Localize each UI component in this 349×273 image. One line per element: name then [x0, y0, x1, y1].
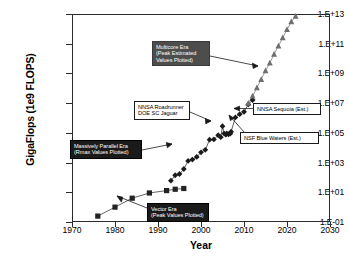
arrowhead-sequoia: [234, 106, 240, 111]
data-point: [293, 13, 299, 19]
data-point: [130, 196, 135, 201]
data-point: [263, 68, 269, 74]
data-point: [164, 188, 169, 193]
data-point: [173, 187, 178, 192]
arrowhead-multicore: [253, 63, 259, 68]
arrowhead-vector: [117, 196, 123, 202]
data-point: [284, 26, 290, 32]
data-point: [95, 213, 100, 218]
arrowhead-massively: [166, 143, 172, 148]
data-point: [185, 158, 191, 164]
annotation-massively-parallel: Massively Parallel Era (Rmax Values Plot…: [70, 140, 142, 159]
leader-line-multicore: [210, 56, 258, 66]
data-point: [254, 84, 260, 90]
arrowhead-roadrunner: [205, 119, 211, 124]
leader-lines: [117, 56, 258, 208]
data-point: [112, 205, 117, 210]
data-point: [258, 76, 264, 82]
data-point: [220, 123, 226, 129]
data-point: [267, 60, 273, 66]
data-point: [280, 35, 286, 41]
data-point: [147, 190, 152, 195]
annotation-nnsa-sequoia: NNSA Sequoia (Est.): [253, 103, 321, 115]
data-point: [250, 93, 256, 99]
annotation-multicore-era: Multicore Era (Peak Estimated Values Plo…: [152, 41, 210, 66]
data-point: [271, 51, 277, 57]
data-point: [181, 186, 186, 191]
annotation-vector-era: Vector Era (Peak Values Plotted): [147, 203, 209, 222]
annotation-nnsa-roadrunner: NNSA Roadrunner DOE SC Jaguar: [134, 101, 190, 120]
data-point: [275, 43, 281, 49]
annotation-nsf-blue-waters: NSF Blue Waters (Est.): [240, 132, 319, 144]
